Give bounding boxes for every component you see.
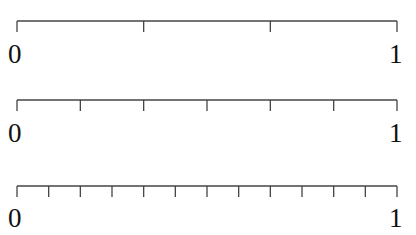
number-line-1 (17, 21, 397, 32)
number-line-2 (17, 100, 397, 111)
line-2-end-label: 1 (389, 120, 403, 147)
line-3-end-label: 1 (389, 205, 403, 232)
number-lines-diagram (0, 0, 416, 235)
line-1-end-label: 1 (389, 41, 403, 68)
line-2-start-label: 0 (8, 120, 22, 147)
line-1-start-label: 0 (8, 41, 22, 68)
number-line-3 (17, 186, 397, 197)
line-3-start-label: 0 (8, 205, 22, 232)
